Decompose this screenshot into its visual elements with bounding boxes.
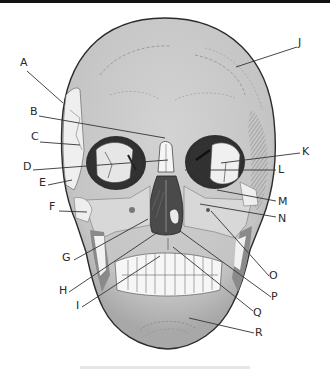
label-Q: Q <box>253 307 262 318</box>
label-H: H <box>59 285 67 296</box>
left-orbit <box>86 136 146 190</box>
label-M: M <box>278 196 288 207</box>
label-G: G <box>62 252 71 263</box>
label-E: E <box>39 177 46 188</box>
leader-line-A <box>27 71 63 103</box>
label-J: J <box>298 37 301 48</box>
label-R: R <box>255 327 263 338</box>
label-K: K <box>302 146 309 157</box>
label-L: L <box>278 164 284 175</box>
label-N: N <box>278 213 286 224</box>
label-P: P <box>271 291 278 302</box>
label-A: A <box>20 57 28 68</box>
faded-caption <box>80 366 250 369</box>
label-I: I <box>76 300 79 311</box>
label-F: F <box>49 201 55 212</box>
nasal-bone <box>158 142 174 173</box>
label-O: O <box>269 270 278 281</box>
skull-illustration <box>0 0 330 371</box>
right-orbit <box>185 135 245 189</box>
nasal-cavity <box>150 176 183 235</box>
label-B: B <box>30 106 38 117</box>
label-D: D <box>23 161 31 172</box>
label-C: C <box>31 131 39 142</box>
